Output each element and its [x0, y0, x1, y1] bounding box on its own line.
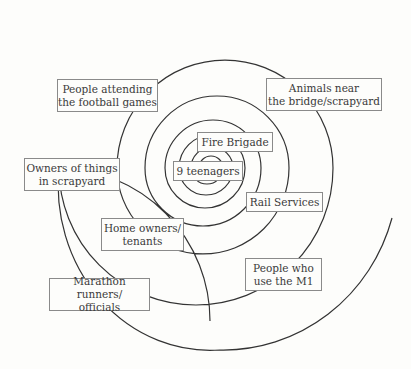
- label-marathon: Marathon runners/ officials: [49, 278, 150, 311]
- label-nine-teenagers: 9 teenagers: [173, 161, 243, 181]
- spiral-tail: [58, 168, 392, 350]
- label-fire-brigade: Fire Brigade: [197, 132, 273, 152]
- label-people-m1: People who use the M1: [245, 258, 322, 291]
- label-football: People attending the football games: [57, 79, 158, 112]
- label-home-owners: Home owners/ tenants: [101, 218, 184, 251]
- label-animals: Animals near the bridge/scrapyard: [266, 78, 382, 111]
- label-rail-services: Rail Services: [246, 192, 323, 212]
- label-scrapyard-owners: Owners of things in scrapyard: [24, 158, 120, 191]
